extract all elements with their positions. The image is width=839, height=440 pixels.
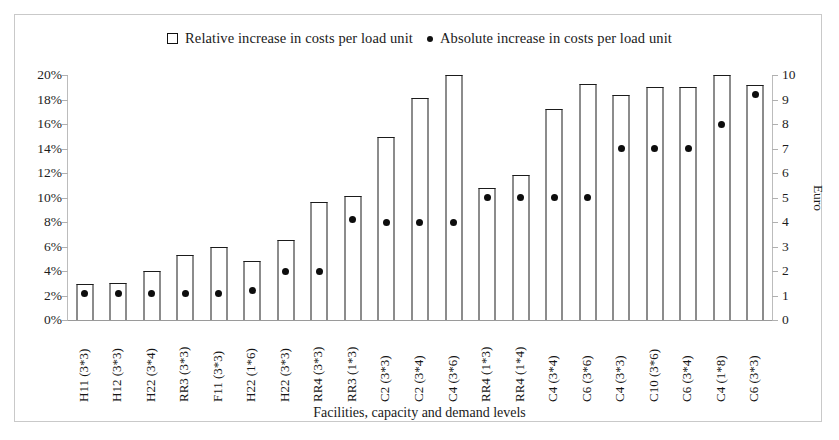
- y-axis-left-tick-label: 6%: [16, 240, 62, 254]
- x-axis-tick-label: H22 (1*6): [244, 348, 257, 402]
- dot-absolute-increase[interactable]: [282, 268, 289, 275]
- bar-group[interactable]: [169, 75, 203, 320]
- y-axis-right-tick-label: 9: [782, 93, 808, 107]
- y-axis-right-tick-label: 8: [782, 117, 808, 131]
- filled-dot-marker-icon: [427, 36, 433, 42]
- y-axis-right-tick: [772, 296, 778, 297]
- y-axis-right-tick-label: 10: [782, 68, 808, 82]
- bar-group[interactable]: [470, 75, 504, 320]
- dot-absolute-increase[interactable]: [450, 219, 457, 226]
- bar-relative-increase[interactable]: [110, 283, 127, 320]
- x-axis-tick-label: H12 (3*3): [110, 348, 123, 402]
- bar-series-group: [68, 75, 772, 320]
- bar-group[interactable]: [236, 75, 270, 320]
- legend-item-relative: Relative increase in costs per load unit: [167, 30, 413, 47]
- bar-relative-increase[interactable]: [579, 84, 596, 320]
- bar-relative-increase[interactable]: [445, 75, 462, 320]
- x-axis-tick-label: RR3 (1*3): [345, 347, 358, 402]
- y-axis-right-tick: [772, 173, 778, 174]
- dot-absolute-increase[interactable]: [551, 194, 558, 201]
- bar-group[interactable]: [403, 75, 437, 320]
- y-axis-left-tick-label: 20%: [16, 68, 62, 82]
- x-axis-tick-label: C4 (1*8): [714, 355, 727, 402]
- bar-relative-increase[interactable]: [378, 137, 395, 320]
- bar-group[interactable]: [571, 75, 605, 320]
- y-axis-right-tick-label: 5: [782, 191, 808, 205]
- bar-group[interactable]: [504, 75, 538, 320]
- x-axis-tick-label: C4 (3*3): [613, 355, 626, 402]
- dot-absolute-increase[interactable]: [685, 145, 692, 152]
- x-axis-tick-label: C6 (3*4): [680, 355, 693, 402]
- bar-group[interactable]: [537, 75, 571, 320]
- dot-absolute-increase[interactable]: [618, 145, 625, 152]
- dot-absolute-increase[interactable]: [249, 287, 256, 294]
- bar-relative-increase[interactable]: [411, 98, 428, 320]
- dot-absolute-increase[interactable]: [383, 219, 390, 226]
- bar-relative-increase[interactable]: [613, 95, 630, 320]
- bar-group[interactable]: [68, 75, 102, 320]
- bar-group[interactable]: [738, 75, 772, 320]
- x-axis-tick-label: C6 (3*3): [747, 355, 760, 402]
- dot-absolute-increase[interactable]: [517, 194, 524, 201]
- y-axis-right-tick-label: 2: [782, 264, 808, 278]
- bar-relative-increase[interactable]: [210, 247, 227, 321]
- bar-group[interactable]: [705, 75, 739, 320]
- x-axis-tick-label: C2 (3*3): [378, 355, 391, 402]
- x-axis-tick-label: F11 (3*3): [211, 351, 224, 402]
- bar-group[interactable]: [102, 75, 136, 320]
- dot-absolute-increase[interactable]: [215, 290, 222, 297]
- y-axis-right-tick-label: 6: [782, 166, 808, 180]
- y-axis-left-tick-label: 16%: [16, 117, 62, 131]
- open-square-marker-icon: [167, 33, 178, 44]
- y-axis-left-tick-label: 18%: [16, 93, 62, 107]
- x-axis-line: [67, 320, 773, 321]
- x-axis-tick-label: H22 (3*3): [278, 348, 291, 402]
- bar-relative-increase[interactable]: [680, 87, 697, 320]
- bar-relative-increase[interactable]: [747, 85, 764, 320]
- bar-relative-increase[interactable]: [646, 87, 663, 320]
- dot-absolute-increase[interactable]: [81, 290, 88, 297]
- dot-absolute-increase[interactable]: [752, 91, 759, 98]
- bar-group[interactable]: [303, 75, 337, 320]
- bar-relative-increase[interactable]: [546, 109, 563, 320]
- bar-group[interactable]: [202, 75, 236, 320]
- y-axis-right-tick-label: 3: [782, 240, 808, 254]
- dot-absolute-increase[interactable]: [316, 268, 323, 275]
- dot-absolute-increase[interactable]: [115, 290, 122, 297]
- bar-group[interactable]: [671, 75, 705, 320]
- x-axis-labels: H11 (3*3)H12 (3*3)H22 (3*4)RR3 (3*3)F11 …: [68, 322, 772, 402]
- y-axis-left-tick-label: 4%: [16, 264, 62, 278]
- legend-label-relative: Relative increase in costs per load unit: [185, 30, 413, 47]
- dot-absolute-increase[interactable]: [182, 290, 189, 297]
- y-axis-right-title: Euro: [810, 184, 826, 210]
- bar-group[interactable]: [336, 75, 370, 320]
- x-axis-tick-label: RR4 (3*3): [311, 347, 324, 402]
- y-axis-right-tick: [772, 149, 778, 150]
- legend-label-absolute: Absolute increase in costs per load unit: [440, 30, 672, 47]
- bar-group[interactable]: [437, 75, 471, 320]
- bar-group[interactable]: [638, 75, 672, 320]
- y-axis-left-tick-label: 14%: [16, 142, 62, 156]
- bar-relative-increase[interactable]: [713, 75, 730, 320]
- bar-group[interactable]: [135, 75, 169, 320]
- bar-relative-increase[interactable]: [277, 240, 294, 320]
- y-axis-right-tick-label: 0: [782, 313, 808, 327]
- bar-group[interactable]: [370, 75, 404, 320]
- x-axis-tick-label: RR4 (1*4): [513, 347, 526, 402]
- y-axis-left-tick: [62, 320, 68, 321]
- bar-relative-increase[interactable]: [344, 196, 361, 320]
- x-axis-tick-label: H11 (3*3): [77, 349, 90, 402]
- dot-absolute-increase[interactable]: [484, 194, 491, 201]
- bar-group[interactable]: [604, 75, 638, 320]
- bar-group[interactable]: [269, 75, 303, 320]
- dot-absolute-increase[interactable]: [718, 121, 725, 128]
- bar-relative-increase[interactable]: [311, 202, 328, 320]
- y-axis-right-tick: [772, 271, 778, 272]
- bar-relative-increase[interactable]: [177, 255, 194, 320]
- bar-relative-increase[interactable]: [479, 188, 496, 320]
- y-axis-right-tick: [772, 222, 778, 223]
- y-axis-right-tick-label: 4: [782, 215, 808, 229]
- y-axis-right-tick: [772, 247, 778, 248]
- dot-absolute-increase[interactable]: [148, 290, 155, 297]
- x-axis-tick-label: C4 (3*6): [446, 355, 459, 402]
